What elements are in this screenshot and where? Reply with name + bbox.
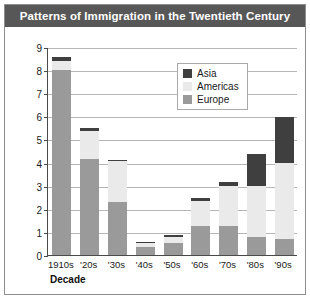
x-tick-label: '70s <box>214 259 242 270</box>
x-tick-label: '30s <box>103 259 131 270</box>
bar-segment-europe <box>164 243 183 255</box>
chart-legend: Asia Americas Europe <box>177 63 248 110</box>
bar-series-container <box>48 48 297 255</box>
x-tick-label: '60s <box>186 259 214 270</box>
bar-segment-americas <box>191 201 210 226</box>
y-tick-mark <box>44 256 48 257</box>
legend-label-europe: Europe <box>197 94 229 105</box>
legend-swatch-americas-icon <box>183 82 192 91</box>
bar-segment-asia <box>247 154 266 185</box>
x-tick-label: '20s <box>75 259 103 270</box>
y-tick-label: 6 <box>36 112 42 123</box>
bar-segment-europe <box>136 247 155 255</box>
y-tick-label: 4 <box>36 158 42 169</box>
bar-segment-europe <box>52 70 71 255</box>
bar-segment-europe <box>108 202 127 255</box>
bar-30s <box>108 160 127 255</box>
bar-segment-americas <box>164 237 183 244</box>
x-tick-label: '90s <box>269 259 297 270</box>
bar-segment-europe <box>275 239 294 255</box>
bar-80s <box>247 154 266 255</box>
bar-segment-europe <box>219 226 238 255</box>
bar-segment-americas <box>108 161 127 201</box>
legend-swatch-europe-icon <box>183 95 192 104</box>
legend-label-asia: Asia <box>197 68 216 79</box>
bar-segment-asia <box>275 117 294 163</box>
y-tick-label: 9 <box>36 43 42 54</box>
y-tick-label: 2 <box>36 204 42 215</box>
y-tick-label: 8 <box>36 66 42 77</box>
x-tick-label: '40s <box>130 259 158 270</box>
x-axis-title: Decade <box>50 274 86 285</box>
bar-90s <box>275 117 294 255</box>
chart-figure: Patterns of Immigration in the Twentieth… <box>0 0 310 304</box>
legend-label-americas: Americas <box>197 81 239 92</box>
bar-50s <box>164 235 183 255</box>
y-tick-label: 3 <box>36 181 42 192</box>
x-tick-label: 1910s <box>47 259 75 270</box>
legend-item-americas: Americas <box>183 80 239 93</box>
legend-item-asia: Asia <box>183 67 239 80</box>
x-tick-label: '50s <box>158 259 186 270</box>
bar-40s <box>136 242 155 255</box>
bar-segment-americas <box>247 186 266 237</box>
chart-title: Patterns of Immigration in the Twentieth… <box>20 10 290 22</box>
bar-segment-americas <box>52 61 71 70</box>
bar-segment-americas <box>219 186 238 226</box>
y-tick-label: 0 <box>36 251 42 262</box>
legend-swatch-asia-icon <box>183 69 192 78</box>
y-tick-label: 1 <box>36 227 42 238</box>
bar-segment-americas <box>80 131 99 159</box>
bar-segment-americas <box>275 163 294 239</box>
bar-70s <box>219 182 238 255</box>
y-tick-label: 5 <box>36 135 42 146</box>
bar-60s <box>191 198 210 255</box>
x-tick-label: '80s <box>241 259 269 270</box>
chart-title-bar: Patterns of Immigration in the Twentieth… <box>5 5 305 27</box>
bar-segment-europe <box>247 237 266 255</box>
bar-segment-europe <box>191 226 210 255</box>
bar-20s <box>80 128 99 255</box>
bar-segment-europe <box>80 159 99 255</box>
bar-1910s <box>52 57 71 255</box>
y-tick-label: 7 <box>36 89 42 100</box>
legend-item-europe: Europe <box>183 93 239 106</box>
plot-area: 0123456789 <box>47 48 297 256</box>
